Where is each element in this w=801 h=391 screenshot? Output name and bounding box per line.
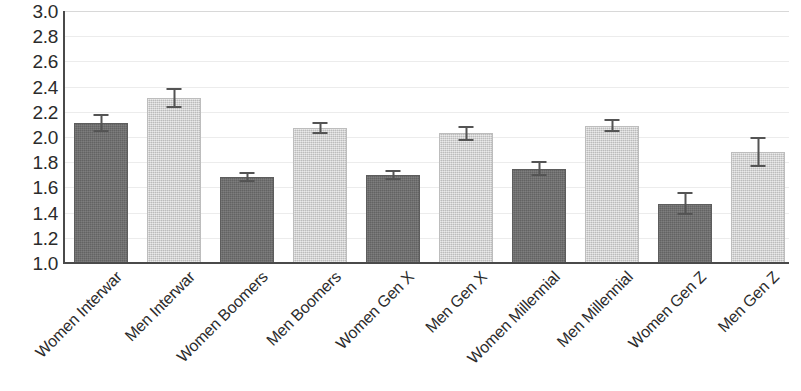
error-bar-cap-bottom <box>313 132 328 134</box>
bar[interactable] <box>220 177 274 263</box>
y-axis: 3.02.82.62.42.22.01.81.61.41.21.0 <box>0 0 58 391</box>
x-tick-label: Women Gen X <box>333 268 417 352</box>
error-bar <box>751 137 766 167</box>
y-tick-label: 3.0 <box>0 2 58 21</box>
error-bar <box>605 119 620 132</box>
error-bar-cap-bottom <box>386 178 401 180</box>
error-bar-cap-top <box>678 192 693 194</box>
error-bar-cap-bottom <box>751 165 766 167</box>
error-bar <box>167 88 182 108</box>
bar[interactable] <box>293 128 347 263</box>
bar-group <box>293 11 347 263</box>
error-bar-cap-bottom <box>459 139 474 141</box>
x-tick-label: Women Millennial <box>464 268 563 367</box>
y-tick-label: 1.8 <box>0 153 58 172</box>
x-tick-label: Men Interwar <box>122 268 198 344</box>
bar[interactable] <box>512 169 566 264</box>
error-bar <box>678 192 693 215</box>
bar-group <box>366 11 420 263</box>
x-tick-label: Women Gen Z <box>625 268 709 352</box>
error-bar-cap-top <box>240 172 255 174</box>
error-bar-cap-top <box>167 88 182 90</box>
bar[interactable] <box>74 123 128 263</box>
error-bar-cap-bottom <box>240 180 255 182</box>
bar-group <box>731 11 785 263</box>
error-bar-whisker <box>757 137 759 167</box>
y-tick-label: 2.4 <box>0 77 58 96</box>
error-bar-cap-top <box>459 126 474 128</box>
y-tick-label: 1.2 <box>0 228 58 247</box>
bar[interactable] <box>366 175 420 263</box>
y-tick-label: 1.0 <box>0 254 58 273</box>
y-tick-label: 1.4 <box>0 203 58 222</box>
bar-chart: 3.02.82.62.42.22.01.81.61.41.21.0 Women … <box>0 0 801 391</box>
y-tick-label: 1.6 <box>0 178 58 197</box>
x-axis-line <box>63 262 789 264</box>
x-tick-label: Men Boomers <box>263 268 344 349</box>
error-bar-cap-top <box>313 122 328 124</box>
y-tick-label: 2.0 <box>0 128 58 147</box>
bar-group <box>439 11 493 263</box>
error-bar-cap-bottom <box>532 174 547 176</box>
error-bar-cap-top <box>605 119 620 121</box>
error-bar-cap-bottom <box>94 130 109 132</box>
y-tick-label: 2.2 <box>0 102 58 121</box>
bar-group <box>74 11 128 263</box>
error-bar <box>94 114 109 132</box>
bar-group <box>658 11 712 263</box>
error-bar-whisker <box>173 88 175 108</box>
bar-group <box>147 11 201 263</box>
x-tick-label: Men Gen X <box>422 268 490 336</box>
error-bar-cap-top <box>751 137 766 139</box>
bar[interactable] <box>439 133 493 263</box>
error-bar <box>532 161 547 176</box>
bar-group <box>585 11 639 263</box>
error-bar <box>386 170 401 180</box>
error-bar-cap-top <box>532 161 547 163</box>
bar[interactable] <box>585 126 639 263</box>
bar-group <box>512 11 566 263</box>
error-bar-cap-bottom <box>605 130 620 132</box>
y-tick-label: 2.8 <box>0 27 58 46</box>
x-tick-label: Women Boomers <box>174 268 271 365</box>
error-bar-cap-bottom <box>678 213 693 215</box>
bar[interactable] <box>731 152 785 263</box>
error-bar <box>459 126 474 141</box>
x-tick-label: Men Gen Z <box>715 268 782 335</box>
error-bar-whisker <box>684 192 686 215</box>
error-bar-cap-bottom <box>167 106 182 108</box>
error-bar <box>240 172 255 182</box>
error-bar-cap-top <box>94 114 109 116</box>
bar[interactable] <box>147 98 201 263</box>
bar-group <box>220 11 274 263</box>
bars-layer <box>65 11 789 263</box>
y-tick-label: 2.6 <box>0 52 58 71</box>
x-tick-label: Men Millennial <box>554 268 636 350</box>
error-bar <box>313 122 328 135</box>
error-bar-cap-top <box>386 170 401 172</box>
plot-area <box>63 11 789 263</box>
